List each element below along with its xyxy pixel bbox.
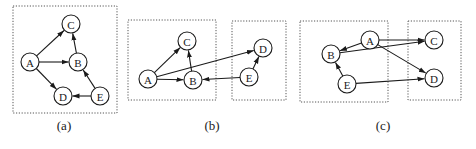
edge-a-to-b bbox=[157, 79, 184, 80]
panel-a: ABCDE(a) bbox=[13, 6, 117, 133]
edge-e-to-b bbox=[203, 78, 241, 80]
node-label: E bbox=[246, 72, 253, 84]
node-label: A bbox=[26, 57, 34, 69]
node-d: D bbox=[254, 39, 272, 57]
node-d: D bbox=[425, 69, 443, 87]
partition-box bbox=[232, 21, 286, 100]
node-c: C bbox=[178, 32, 196, 50]
node-c: C bbox=[425, 31, 443, 49]
node-b: B bbox=[322, 45, 340, 63]
graph-partition-figure: ABCDE(a) ABCDE(b) ABCDE(c) bbox=[0, 0, 476, 149]
panel-b: ABCDE(b) bbox=[128, 20, 286, 133]
panel-caption: (c) bbox=[376, 118, 390, 133]
node-label: A bbox=[144, 74, 152, 86]
node-label: E bbox=[344, 79, 351, 91]
node-label: B bbox=[189, 75, 196, 87]
node-label: E bbox=[97, 91, 104, 103]
node-label: B bbox=[327, 49, 334, 61]
node-label: D bbox=[59, 91, 67, 103]
node-b: B bbox=[184, 71, 202, 89]
edge-e-to-d bbox=[253, 57, 259, 69]
node-e: E bbox=[240, 68, 258, 86]
node-label: D bbox=[430, 73, 438, 85]
edge-e-to-b bbox=[336, 62, 343, 76]
edge-b-to-c bbox=[73, 33, 77, 53]
panel-c: ABCDE(c) bbox=[300, 21, 461, 133]
edge-a-to-d bbox=[36, 69, 56, 90]
panel-caption: (b) bbox=[204, 118, 219, 133]
partition-box bbox=[128, 20, 216, 100]
node-label: C bbox=[430, 35, 437, 47]
edge-a-to-c bbox=[154, 48, 180, 73]
edge-a-to-d bbox=[157, 51, 254, 77]
node-label: B bbox=[74, 57, 81, 69]
edge-e-to-d bbox=[356, 79, 425, 84]
node-d: D bbox=[54, 87, 72, 105]
node-b: B bbox=[69, 53, 87, 71]
node-e: E bbox=[91, 87, 109, 105]
node-e: E bbox=[338, 75, 356, 93]
node-a: A bbox=[361, 31, 379, 49]
node-a: A bbox=[139, 70, 157, 88]
edge-a-to-d bbox=[378, 45, 426, 74]
node-label: D bbox=[259, 43, 267, 55]
edge-e-to-b bbox=[83, 70, 95, 88]
node-label: C bbox=[183, 36, 190, 48]
edge-a-to-b bbox=[340, 43, 362, 51]
diagram-canvas: ABCDE(a) ABCDE(b) ABCDE(c) bbox=[0, 0, 476, 149]
node-label: C bbox=[67, 19, 74, 31]
panel-caption: (a) bbox=[57, 118, 71, 133]
node-c: C bbox=[62, 15, 80, 33]
node-label: A bbox=[366, 35, 374, 47]
node-a: A bbox=[21, 53, 39, 71]
edge-b-to-c bbox=[340, 41, 425, 53]
edge-a-to-c bbox=[37, 31, 64, 56]
